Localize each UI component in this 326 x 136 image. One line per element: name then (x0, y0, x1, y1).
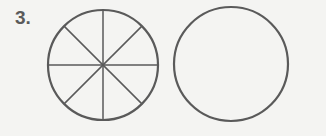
figures (0, 0, 326, 136)
blank-circle (174, 7, 288, 121)
divided-circle (48, 10, 158, 120)
